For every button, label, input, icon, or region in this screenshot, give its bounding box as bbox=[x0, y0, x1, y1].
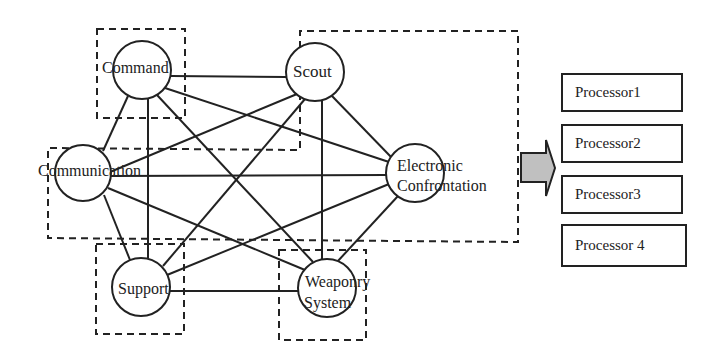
processor-3-label: Processor3 bbox=[575, 186, 641, 203]
node-label-support: Support bbox=[118, 280, 169, 298]
processor-3: Processor3 bbox=[561, 175, 683, 214]
edge-electronic-weaponry bbox=[337, 196, 398, 262]
node-label-scout: Scout bbox=[293, 63, 332, 81]
edge-command-electronic bbox=[165, 88, 389, 162]
edge-communication-electronic bbox=[111, 175, 386, 176]
node-label-communication: Communication bbox=[38, 162, 141, 180]
node-label-electronic: Electronic bbox=[397, 157, 463, 175]
processor-4-label: Processor 4 bbox=[575, 237, 645, 254]
processor-4: Processor 4 bbox=[561, 224, 687, 267]
edge-command-scout bbox=[171, 76, 286, 77]
edge-scout-electronic bbox=[332, 96, 392, 158]
processor-1: Processor1 bbox=[561, 73, 683, 112]
node-label-confrontation: Confrontation bbox=[397, 177, 487, 195]
edge-command-communication bbox=[103, 96, 128, 151]
processor-2-label: Processor2 bbox=[575, 135, 641, 152]
edge-communication-support bbox=[104, 195, 130, 260]
node-label-weaponry: Weaponry bbox=[305, 273, 370, 291]
node-label-system: System bbox=[304, 294, 351, 312]
processor-2: Processor2 bbox=[561, 124, 683, 163]
edge-scout-communication bbox=[110, 94, 297, 172]
node-label-command: Command bbox=[102, 59, 169, 77]
processor-1-label: Processor1 bbox=[575, 84, 641, 101]
mapping-arrow-icon bbox=[521, 140, 555, 196]
